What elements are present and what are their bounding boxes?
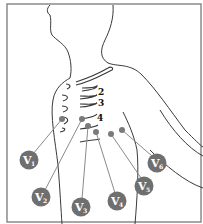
- lead-badge-v1: V 1: [20, 151, 39, 170]
- lead-badge-v4: V 4: [108, 192, 127, 211]
- electrode-v2: [79, 116, 85, 122]
- chest-illustration: 2 3 4 V 1 V 2 V 3 V 4 V: [0, 0, 203, 224]
- clavicle: [76, 67, 113, 85]
- electrode-v1: [59, 116, 65, 122]
- electrode-v4: [93, 129, 99, 135]
- left-ribs: [60, 84, 70, 132]
- svg-text:2: 2: [43, 197, 47, 204]
- ecg-lead-diagram: 2 3 4 V 1 V 2 V 3 V 4 V: [0, 0, 203, 224]
- electrode-v3: [85, 123, 91, 129]
- head-neck-outline: [47, 5, 71, 224]
- electrode-v5: [108, 131, 114, 137]
- lead-badge-v5: V 5: [135, 177, 154, 196]
- arm-outline: [160, 110, 203, 156]
- torso-side-outline: [123, 112, 138, 224]
- svg-text:4: 4: [119, 201, 123, 208]
- electrode-v6: [119, 127, 125, 133]
- svg-text:5: 5: [146, 186, 150, 193]
- intercostal-label-2: 2: [98, 87, 104, 97]
- electrodes: [59, 116, 125, 137]
- lead-badge-v3: V 3: [72, 198, 91, 217]
- neck-back-outline: [102, 5, 203, 147]
- svg-text:1: 1: [31, 160, 35, 167]
- intercostal-label-4: 4: [97, 113, 103, 123]
- svg-text:6: 6: [159, 163, 163, 170]
- intercostal-label-3: 3: [98, 98, 104, 108]
- svg-text:3: 3: [83, 207, 87, 214]
- lead-wires: [33, 119, 152, 199]
- lead-badge-v2: V 2: [32, 188, 51, 207]
- lead-badge-v6: V 6: [148, 154, 167, 173]
